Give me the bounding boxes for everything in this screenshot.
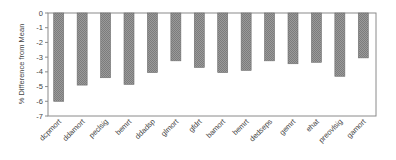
bar-ddamort — [77, 13, 87, 85]
y-tick-label: -6 — [36, 97, 43, 106]
y-tick-label: -4 — [36, 67, 43, 76]
bar-peclsig — [101, 13, 111, 78]
y-tick-label: -1 — [36, 23, 43, 32]
x-tick-label: bemrt — [113, 116, 134, 137]
bar-bemrt — [124, 13, 134, 84]
x-tick-label: ehat — [304, 116, 321, 133]
x-tick-label: dedseps — [248, 117, 275, 144]
x-tick-label: gfdrt — [187, 116, 205, 134]
x-tick-label: glmort — [159, 116, 181, 138]
plot-area — [48, 13, 376, 116]
x-tick-label: bamort — [204, 116, 228, 140]
bar-preovlsig — [335, 13, 345, 76]
bar-glmort — [171, 13, 181, 61]
bar-gemrt — [288, 13, 298, 64]
bar-series — [54, 13, 369, 101]
bar-bemrt — [241, 13, 251, 70]
x-tick-label: gamort — [345, 116, 369, 140]
y-tick-label: -3 — [36, 53, 43, 62]
y-tick-label: -5 — [36, 82, 43, 91]
x-tick-label: gemrt — [277, 116, 298, 137]
bar-dcpmort — [54, 13, 64, 101]
chart-canvas: 0-1-2-3-4-5-6-7 dcpmortddamortpeclsigbem… — [0, 0, 396, 160]
x-tick-label: ddamort — [61, 116, 87, 142]
x-tick-label: bemrt — [231, 116, 252, 137]
bar-ddadsp — [147, 13, 157, 73]
bar-bamort — [218, 13, 228, 73]
y-axis-title: % Difference from Mean — [17, 24, 26, 105]
bar-ehat — [311, 13, 321, 62]
bar-dedseps — [265, 13, 275, 61]
y-axis: 0-1-2-3-4-5-6-7 — [36, 9, 48, 121]
bar-gamort — [358, 13, 368, 58]
x-tick-label: peclsig — [87, 117, 110, 140]
y-tick-label: 0 — [39, 9, 43, 18]
x-axis-labels: dcpmortddamortpeclsigbemrtddadspglmortgf… — [38, 116, 369, 144]
plot-border — [48, 13, 376, 116]
bar-gfdrt — [194, 13, 204, 67]
bar-chart: 0-1-2-3-4-5-6-7 dcpmortddamortpeclsigbem… — [0, 0, 396, 160]
y-tick-label: -2 — [36, 38, 43, 47]
x-tick-label: preovlsig — [317, 117, 345, 145]
y-tick-label: -7 — [36, 112, 43, 121]
x-tick-label: ddadsp — [133, 117, 157, 141]
